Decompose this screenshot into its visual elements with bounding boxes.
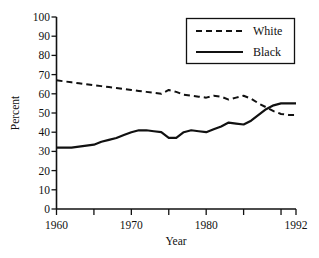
y-axis-tick-label: 70 — [39, 69, 51, 81]
x-axis-tick-label: 1980 — [195, 219, 218, 231]
y-axis-tick-label: 10 — [39, 184, 51, 196]
x-axis-tick-label: 1960 — [45, 219, 68, 231]
y-axis-tick-label: 20 — [39, 165, 51, 177]
legend-label-white: White — [253, 24, 282, 38]
y-axis-title: Percent — [9, 95, 21, 130]
y-axis-tick-label: 0 — [44, 203, 50, 215]
y-axis-tick-label: 50 — [39, 107, 51, 119]
x-axis-tick-label: 1992 — [285, 219, 308, 231]
y-axis-tick-label: 80 — [39, 49, 51, 61]
y-axis-tick-label: 40 — [39, 126, 51, 138]
chart-legend: White Black — [187, 19, 295, 64]
line-chart: 0102030405060708090100 1960197019801992 … — [0, 0, 319, 258]
chart-container: 0102030405060708090100 1960197019801992 … — [0, 0, 319, 258]
y-axis-tick-label: 90 — [39, 30, 51, 42]
y-axis-tick-label: 100 — [33, 11, 51, 23]
legend-label-black: Black — [253, 45, 281, 59]
x-axis-title: Year — [165, 235, 186, 247]
x-axis-tick-label: 1970 — [120, 219, 143, 231]
y-axis-tick-label: 60 — [39, 88, 51, 100]
y-axis-tick-label: 30 — [39, 145, 51, 157]
